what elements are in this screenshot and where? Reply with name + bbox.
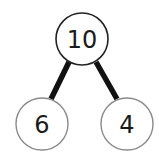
part-node-right: 4 (101, 98, 153, 150)
number-bond-diagram: 10 6 4 (0, 0, 159, 162)
connector-right (96, 62, 117, 99)
connector-left (51, 62, 69, 99)
whole-value: 10 (67, 26, 98, 54)
whole-node: 10 (56, 13, 108, 65)
part-value-left: 6 (34, 111, 49, 139)
part-value-right: 4 (119, 111, 134, 139)
part-node-left: 6 (16, 98, 68, 150)
